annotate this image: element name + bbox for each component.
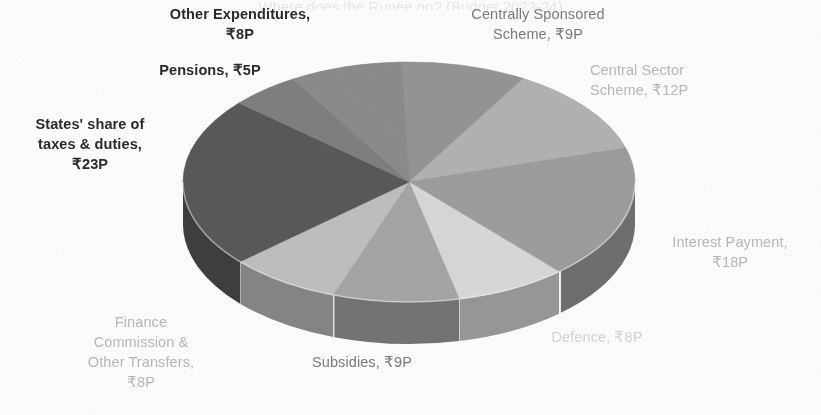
slice-label-defence: Defence, ₹8P [512, 327, 682, 347]
slice-label-states-share: States' share of taxes & duties, ₹23P [2, 114, 178, 174]
slice-label-finance-commission: Finance Commission & Other Transfers, ₹8… [56, 312, 226, 392]
pie-top-faces [183, 62, 635, 302]
slice-label-centrally-sponsored-scheme: Centrally Sponsored Scheme, ₹9P [430, 4, 646, 44]
slice-label-subsidies: Subsidies, ₹9P [262, 352, 462, 372]
slice-label-interest-payment: Interest Payment, ₹18P [640, 232, 820, 272]
slice-label-central-sector-scheme: Central Sector Scheme, ₹12P [590, 60, 760, 100]
slice-label-pensions: Pensions, ₹5P [110, 60, 310, 80]
slice-label-other-expenditures: Other Expenditures, ₹8P [120, 4, 360, 44]
chart-page: Where does the Rupee go? (Budget 2023-24… [0, 0, 821, 415]
